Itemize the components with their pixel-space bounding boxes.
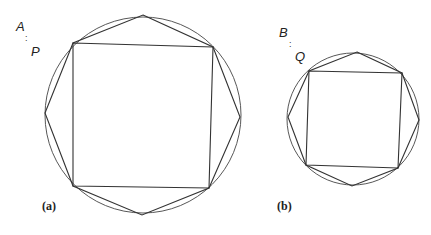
- panel-a: A : P (a): [15, 15, 241, 215]
- label-Q: Q: [295, 49, 305, 64]
- square-a: [73, 43, 213, 188]
- panel-b: B : Q (b): [277, 25, 419, 213]
- separator-a: :: [25, 33, 28, 43]
- separator-b: :: [289, 39, 292, 49]
- caption-a: (a): [42, 199, 56, 213]
- figure-canvas: A : P (a) B : Q (b): [0, 0, 431, 235]
- caption-b: (b): [277, 199, 292, 213]
- label-B: B: [279, 25, 288, 40]
- square-b: [306, 71, 402, 168]
- label-A: A: [15, 19, 25, 34]
- label-P: P: [31, 44, 40, 59]
